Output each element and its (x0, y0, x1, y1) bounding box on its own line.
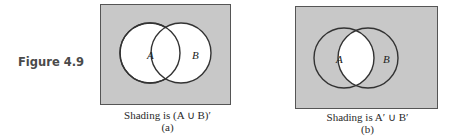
sublabel-b: (b) (310, 123, 425, 135)
caption-b-text: Shading is A′ ∪ B′ (310, 111, 425, 123)
set-b-label: B (383, 53, 390, 65)
venn-diagram-b: A B (295, 6, 438, 109)
caption-a-text: Shading is (A ∪ B)′ (110, 109, 225, 121)
set-b-label: B (192, 49, 199, 61)
figure-label: Figure 4.9 (18, 55, 84, 69)
venn-diagram-a: A B (100, 4, 231, 105)
set-a-label: A (335, 53, 343, 65)
set-a-label: A (146, 49, 154, 61)
caption-b: Shading is A′ ∪ B′ (b) (310, 111, 425, 135)
caption-a: Shading is (A ∪ B)′ (a) (110, 109, 225, 133)
sublabel-a: (a) (110, 121, 225, 133)
